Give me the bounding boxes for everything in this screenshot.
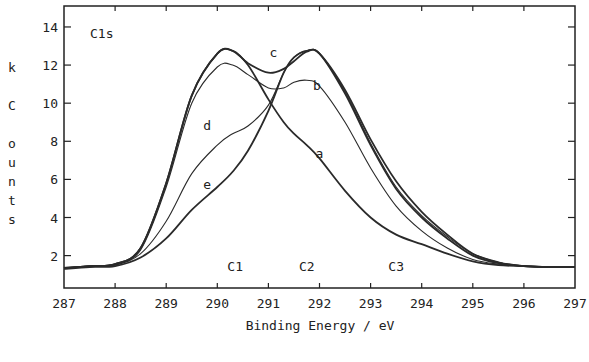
annotation-d: d [203, 118, 211, 133]
xps-c1s-chart: 287288289290291292293294295296297 246810… [0, 0, 589, 362]
annotation-a: a [316, 146, 324, 161]
panel-label: C1s [90, 26, 113, 41]
y-axis-title-char: t [8, 193, 16, 208]
y-tick-label: 6 [50, 172, 58, 187]
x-tick-label: 296 [512, 296, 535, 311]
annotation-c: c [270, 45, 278, 60]
y-axis-title-char: n [8, 174, 16, 189]
x-tick-label: 290 [206, 296, 229, 311]
annotation-b: b [313, 78, 321, 93]
x-axis-title: Binding Energy / eV [246, 318, 395, 333]
x-tick-label: 291 [257, 296, 280, 311]
curve-b [64, 63, 575, 268]
x-tick-label: 292 [308, 296, 331, 311]
x-tick-label: 297 [563, 296, 586, 311]
x-tick-label: 287 [52, 296, 75, 311]
y-axis-ticks: 2468101214 [42, 20, 575, 264]
y-axis-title-char: s [8, 212, 16, 227]
y-axis-title-char: C [8, 98, 16, 113]
annotation-c1: C1 [227, 259, 243, 274]
x-tick-label: 293 [359, 296, 382, 311]
y-tick-label: 4 [50, 211, 58, 226]
x-tick-label: 294 [410, 296, 434, 311]
annotation-e: e [203, 177, 211, 192]
y-tick-label: 8 [50, 134, 58, 149]
y-tick-label: 14 [42, 20, 58, 35]
y-tick-label: 10 [42, 96, 58, 111]
y-axis-title-char: u [8, 155, 16, 170]
y-axis-title-char: o [8, 136, 16, 151]
annotation-c3: C3 [388, 259, 404, 274]
y-tick-label: 2 [50, 249, 58, 264]
y-axis-title: kCounts [8, 60, 16, 227]
x-tick-label: 288 [103, 296, 126, 311]
y-axis-title-char: k [8, 60, 16, 75]
y-tick-label: 12 [42, 58, 58, 73]
x-tick-label: 289 [154, 296, 177, 311]
x-tick-label: 295 [461, 296, 484, 311]
annotation-c2: C2 [299, 259, 315, 274]
